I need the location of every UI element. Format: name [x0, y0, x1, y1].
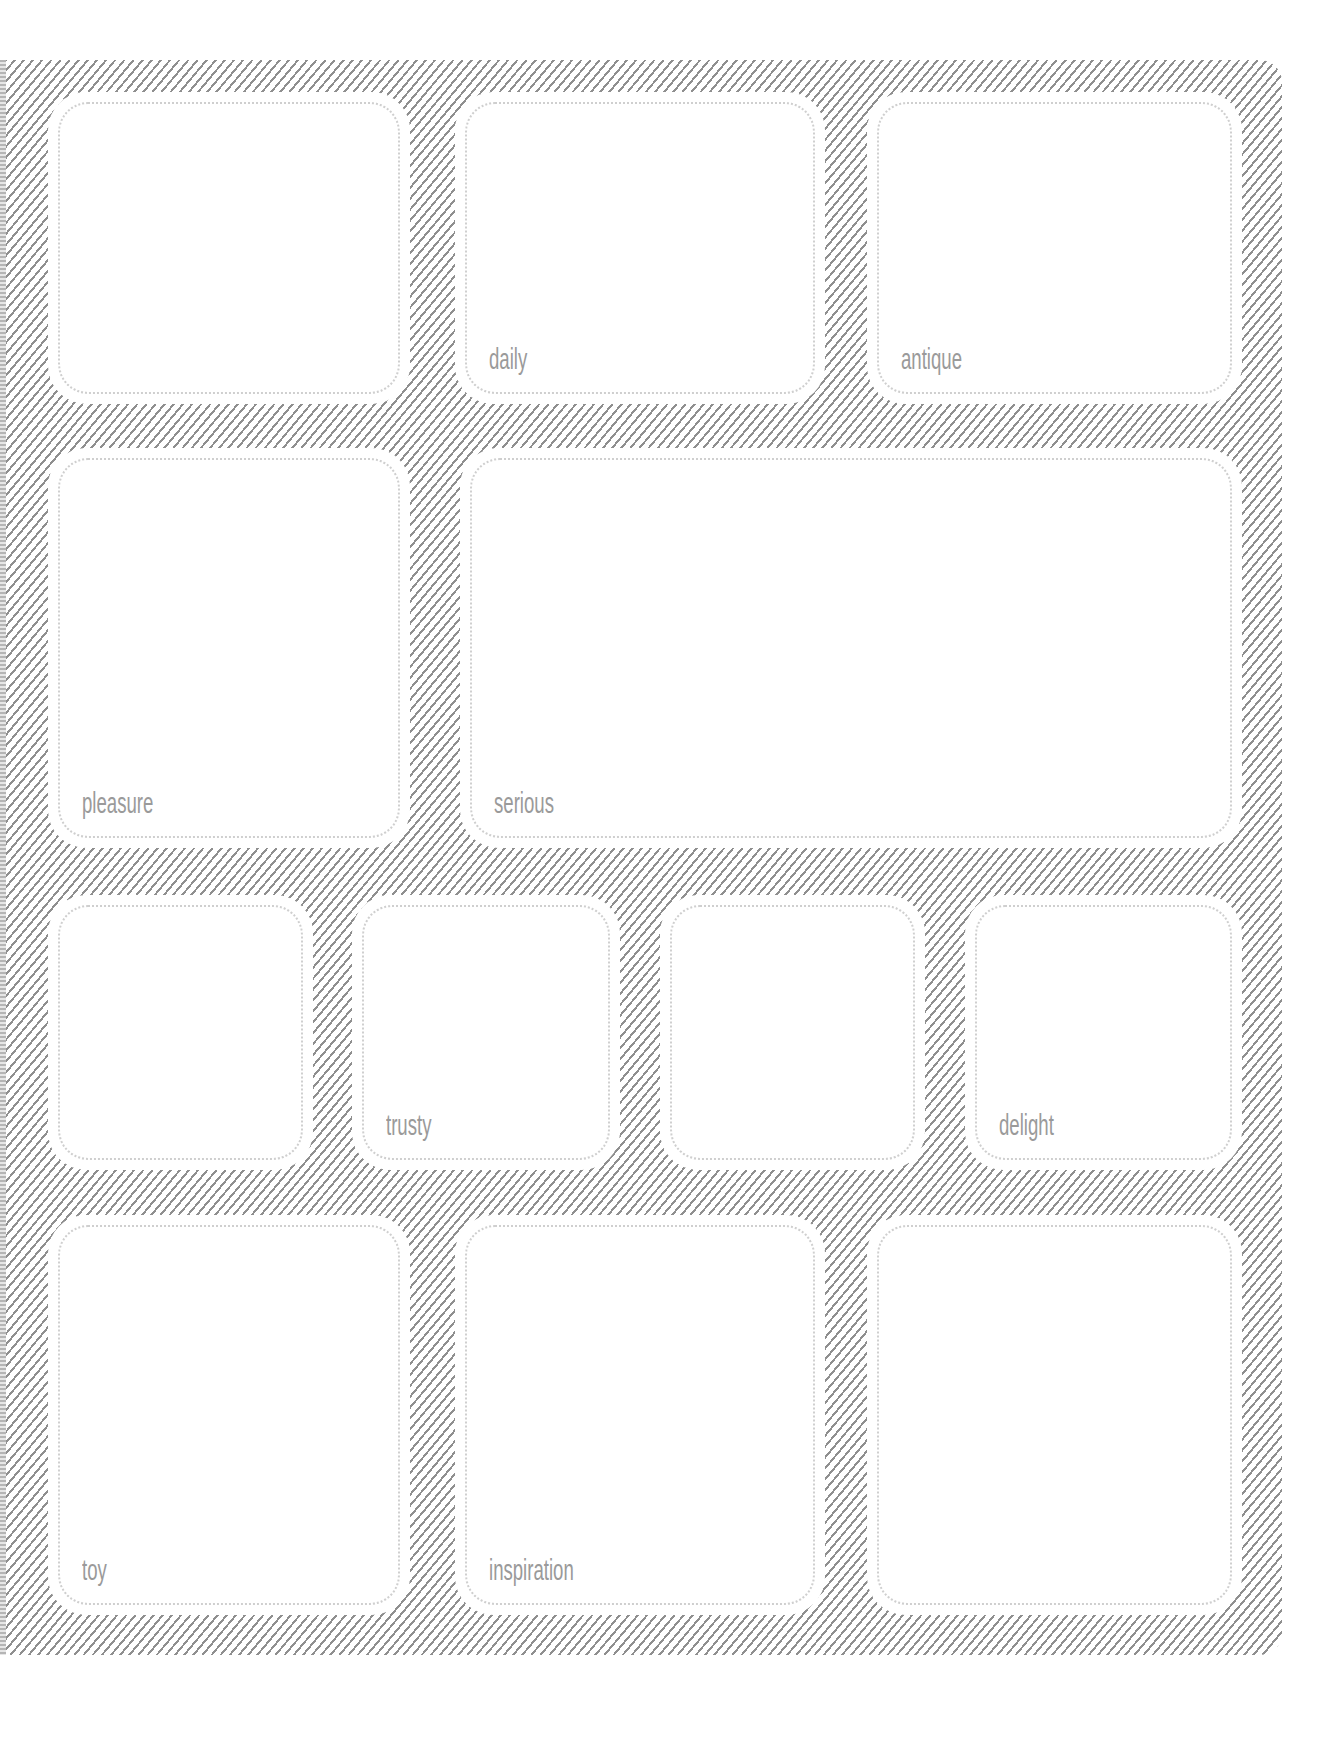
dotted-border: [58, 458, 400, 838]
box-label: inspiration: [489, 1555, 574, 1585]
label-box-r3c1: [48, 895, 313, 1170]
dotted-border: [670, 905, 915, 1160]
label-box-r4c1: toy: [48, 1215, 410, 1615]
box-label: daily: [489, 344, 527, 374]
label-box-r1c1: [48, 92, 410, 404]
box-label: trusty: [386, 1110, 431, 1140]
box-label: toy: [82, 1555, 107, 1585]
dotted-border: [877, 1225, 1232, 1605]
box-label: pleasure: [82, 788, 153, 818]
label-box-r3c2: trusty: [352, 895, 620, 1170]
box-label: delight: [999, 1110, 1054, 1140]
box-label: serious: [494, 788, 554, 818]
label-box-r1c2: daily: [455, 92, 825, 404]
dotted-border: [470, 458, 1232, 838]
box-label: antique: [901, 344, 962, 374]
label-box-r1c3: antique: [867, 92, 1242, 404]
dotted-border: [58, 905, 303, 1160]
dotted-border: [58, 1225, 400, 1605]
dotted-border: [58, 102, 400, 394]
label-box-r4c3: [867, 1215, 1242, 1615]
dotted-border: [465, 1225, 815, 1605]
label-box-r4c2: inspiration: [455, 1215, 825, 1615]
label-box-r3c4: delight: [965, 895, 1242, 1170]
label-box-r2c1: pleasure: [48, 448, 410, 848]
label-box-r2c2: serious: [460, 448, 1242, 848]
label-box-r3c3: [660, 895, 925, 1170]
